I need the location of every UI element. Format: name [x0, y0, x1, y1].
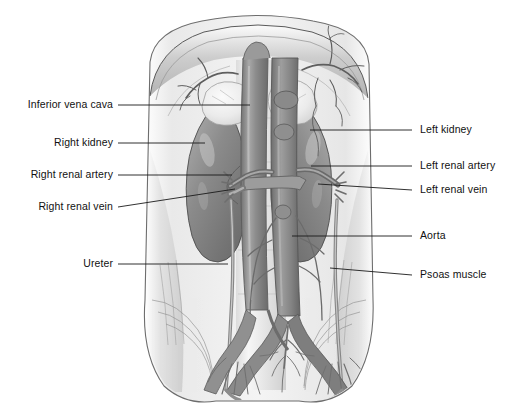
label-right-renal-vein: Right renal vein	[38, 201, 113, 212]
figure-canvas: Inferior vena cava Right kidney Right re…	[0, 0, 515, 418]
label-aorta: Aorta	[420, 230, 446, 241]
label-right-renal-artery: Right renal artery	[31, 169, 113, 180]
label-left-kidney: Left kidney	[420, 124, 472, 135]
label-right-kidney: Right kidney	[54, 137, 113, 148]
label-left-renal-artery: Left renal artery	[420, 160, 495, 171]
label-left-renal-vein: Left renal vein	[420, 184, 487, 195]
label-psoas-muscle: Psoas muscle	[420, 269, 487, 280]
label-inferior-vena-cava: Inferior vena cava	[28, 99, 113, 110]
label-ureter: Ureter	[83, 258, 113, 269]
